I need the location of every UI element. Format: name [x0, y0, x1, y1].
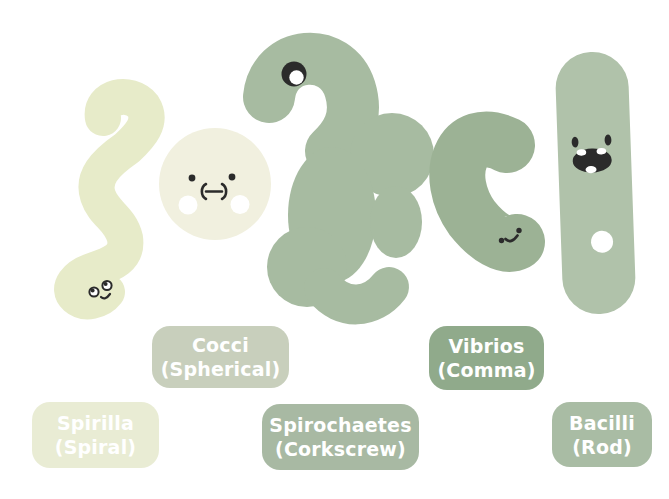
label-badge-spirochaetes: Spirochaetes (Corkscrew) [262, 404, 419, 470]
spirochaetes-eye-white [289, 70, 303, 84]
vibrios-left-eye [499, 238, 504, 243]
label-badge-cocci: Cocci (Spherical) [152, 326, 289, 388]
vibrios-illustration [457, 140, 521, 244]
spirilla-left-pupil [91, 289, 95, 293]
spirilla-right-pupil [104, 282, 108, 286]
cocci-right-eye [229, 174, 236, 181]
label-subtitle: (Comma) [437, 358, 535, 382]
label-name: Bacilli [569, 411, 635, 435]
label-badge-vibrios: Vibrios (Comma) [429, 326, 544, 390]
spirochaetes-face [282, 62, 307, 87]
cocci-illustration [159, 128, 271, 240]
spirochaetes-lower-lobe [370, 186, 422, 258]
cocci-body [159, 128, 271, 240]
spirilla-illustration [72, 97, 147, 301]
cocci-left-eye [189, 175, 196, 182]
bacilli-body [554, 51, 636, 315]
label-subtitle: (Spiral) [55, 435, 136, 459]
label-badge-bacilli: Bacilli (Rod) [552, 402, 652, 467]
label-name: Vibrios [448, 334, 524, 358]
label-name: Cocci [192, 333, 249, 357]
vibrios-body [457, 140, 517, 244]
spirochaetes-tail [324, 287, 389, 304]
label-name: Spirochaetes [269, 413, 411, 437]
bacilli-illustration [554, 51, 636, 315]
label-name: Spirilla [57, 411, 134, 435]
illustration-canvas: Spirilla (Spiral) Cocci (Spherical) Spir… [0, 0, 669, 499]
cocci-left-cheek [179, 196, 198, 215]
label-subtitle: (Rod) [572, 435, 632, 459]
cocci-right-cheek [231, 195, 250, 214]
label-subtitle: (Spherical) [161, 357, 281, 381]
label-subtitle: (Corkscrew) [275, 437, 406, 461]
spirilla-body [72, 97, 147, 301]
label-badge-spirilla: Spirilla (Spiral) [32, 402, 159, 468]
vibrios-right-eye [516, 228, 521, 233]
spirochaetes-illustration [267, 59, 434, 307]
